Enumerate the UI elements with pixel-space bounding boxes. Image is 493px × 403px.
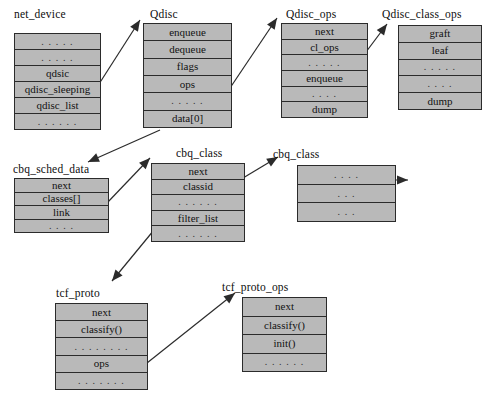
struct-box-qdisc_ops: nextcl_ops. . . . .enqueue. . . .dump [281, 23, 368, 118]
struct-field-tcf_proto-2: . . . . . . . . [56, 338, 147, 355]
struct-field-cbq_class_left-1: classid [152, 180, 244, 196]
struct-field-qdisc-5: data[0] [144, 111, 231, 127]
struct-field-qdisc_class_ops-4: dump [399, 93, 481, 109]
struct-field-cbq_class_left-0: next [152, 164, 244, 180]
struct-title-tcf_proto: tcf_proto [56, 287, 100, 299]
arrow-qdisc-qdiscops [230, 18, 277, 88]
struct-field-net_device-1: . . . . . [15, 50, 100, 66]
arrow-classes-cbqclass [107, 158, 150, 203]
struct-field-cbq_class_left-2: . . . . . . [152, 195, 244, 211]
struct-box-cbq_class_left: nextclassid. . . . . .filter_list. . . .… [151, 163, 245, 242]
struct-field-qdisc-3: ops [144, 76, 231, 93]
struct-field-cbq_class_left-3: filter_list [152, 211, 244, 227]
struct-field-net_device-4: qdisc_list [15, 98, 100, 114]
arrow-ops-tcfprotoops [147, 293, 235, 363]
struct-field-qdisc_class_ops-1: leaf [399, 43, 481, 60]
struct-field-qdisc_class_ops-0: graft [399, 26, 481, 43]
struct-title-net_device: net_device [14, 8, 66, 20]
figure-canvas: net_device. . . . .. . . . .qdsicqdisc_s… [0, 0, 493, 403]
struct-title-cbq_class_left: cbq_class [176, 147, 223, 159]
struct-field-qdisc_ops-1: cl_ops [282, 40, 367, 56]
struct-field-cbq_sched_data-2: link [15, 206, 108, 220]
struct-field-tcf_proto_ops-2: init() [243, 335, 326, 354]
struct-title-cbq_class_right: cbq_class [273, 148, 320, 160]
struct-box-net_device: . . . . .. . . . .qdsicqdisc_sleepingqdi… [14, 33, 101, 130]
struct-field-cbq_class_right-2: . . . [298, 203, 395, 221]
struct-field-cbq_class_right-0: . . . . [298, 166, 395, 185]
struct-field-qdisc_class_ops-3: . . . . [399, 76, 481, 93]
struct-field-tcf_proto-4: . . . . . . . [56, 373, 147, 389]
struct-field-tcf_proto_ops-0: next [243, 298, 326, 317]
struct-title-qdisc: Qdisc [150, 8, 178, 20]
struct-field-qdisc-0: enqueue [144, 24, 231, 41]
struct-box-cbq_sched_data: nextclasses[]link. . . . [14, 178, 109, 233]
struct-field-net_device-2: qdsic [15, 66, 100, 82]
arrow-data0-cbqsched [88, 130, 160, 162]
struct-field-cbq_class_left-4: . . . . . . [152, 226, 244, 241]
struct-field-cbq_class_right-1: . . . [298, 185, 395, 204]
struct-field-cbq_sched_data-1: classes[] [15, 193, 108, 207]
struct-box-tcf_proto_ops: nextclassify()init(). . . . . . [242, 297, 327, 372]
struct-box-qdisc: enqueuedequeueflagsops. . . . .data[0] [143, 23, 232, 128]
struct-field-qdisc_ops-3: enqueue [282, 71, 367, 87]
struct-field-cbq_sched_data-3: . . . . [15, 220, 108, 233]
struct-box-qdisc_class_ops: graftleaf. . . . .. . . .dump [398, 25, 482, 110]
struct-field-qdisc-4: . . . . . [144, 93, 231, 110]
struct-title-tcf_proto_ops: tcf_proto_ops [222, 281, 288, 293]
struct-box-cbq_class_right: . . . .. . .. . . [297, 165, 396, 222]
struct-field-qdisc_ops-0: next [282, 24, 367, 40]
struct-field-qdisc_class_ops-2: . . . . . [399, 60, 481, 77]
arrow-cbqclass-cbqclass [243, 157, 278, 178]
struct-title-qdisc_class_ops: Qdisc_class_ops [382, 8, 462, 20]
struct-field-net_device-3: qdisc_sleeping [15, 82, 100, 98]
struct-field-tcf_proto_ops-1: classify() [243, 317, 326, 336]
struct-field-tcf_proto-1: classify() [56, 321, 147, 338]
struct-field-net_device-0: . . . . . [15, 34, 100, 50]
struct-field-qdisc_ops-4: . . . . [282, 87, 367, 103]
struct-field-qdisc_ops-2: . . . . . [282, 55, 367, 71]
struct-field-tcf_proto-3: ops [56, 356, 147, 373]
struct-field-net_device-5: . . . . . . [15, 114, 100, 129]
struct-box-tcf_proto: nextclassify(). . . . . . . .ops. . . . … [55, 303, 148, 390]
struct-field-cbq_sched_data-0: next [15, 179, 108, 193]
struct-field-tcf_proto-0: next [56, 304, 147, 321]
struct-title-cbq_sched_data: cbq_sched_data [13, 163, 89, 175]
struct-field-qdisc-2: flags [144, 59, 231, 76]
struct-field-qdisc-1: dequeue [144, 41, 231, 58]
arrow-netdev-qdisc [99, 20, 140, 84]
arrow-qdiscops-classops [366, 24, 387, 52]
struct-field-tcf_proto_ops-3: . . . . . . [243, 354, 326, 372]
struct-title-qdisc_ops: Qdisc_ops [286, 8, 336, 20]
struct-field-qdisc_ops-5: dump [282, 102, 367, 117]
